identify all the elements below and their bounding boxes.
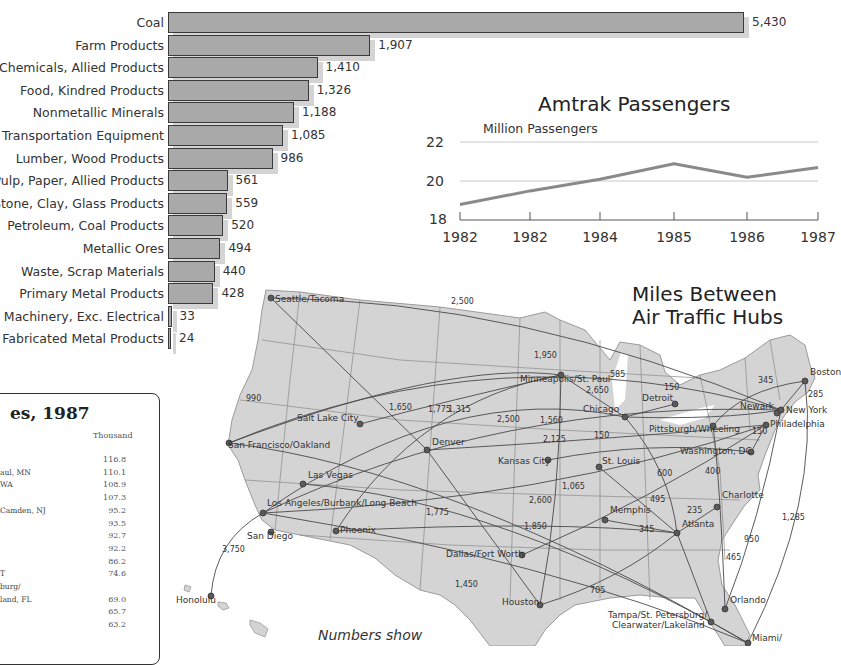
table-row-value: 74.6 — [108, 569, 126, 578]
distance-label: 1,450 — [455, 580, 478, 589]
hub-dot — [802, 378, 808, 384]
city-label: Miami/ — [752, 633, 782, 643]
table-row-label: aul, MN — [0, 468, 31, 477]
distance-label: 1,775 — [426, 508, 449, 517]
city-label: Charlotte — [722, 490, 764, 500]
city-label: Washington, DC — [680, 446, 752, 456]
distance-label: 400 — [705, 467, 720, 476]
table-row-value: 116.8 — [103, 455, 126, 464]
distance-label: 950 — [744, 535, 759, 544]
city-label: Philadelphia — [770, 419, 825, 429]
city-label: San Diego — [247, 531, 293, 541]
city-label: Las Vegas — [308, 470, 353, 480]
distance-label: 1,285 — [782, 513, 805, 522]
map-title-line2: Air Traffic Hubs — [632, 305, 783, 329]
city-label: Minneapolis/St. Paul — [520, 374, 610, 384]
distance-label: 585 — [610, 370, 625, 379]
distance-label: 150 — [664, 383, 679, 392]
city-label: Tampa/St. Petersburg/ — [608, 610, 707, 620]
hub-dot — [622, 414, 628, 420]
hub-dot — [268, 295, 274, 301]
city-label: Salt Lake City — [297, 413, 359, 423]
distance-label: 495 — [650, 495, 665, 504]
distance-label: 2,500 — [451, 297, 474, 306]
city-label: Pittsburgh/Wheeling — [649, 424, 740, 434]
hub-dot — [674, 530, 680, 536]
distance-label: 1,315 — [448, 405, 471, 414]
city-label: Clearwater/Lakeland — [612, 620, 705, 630]
distance-label: 465 — [726, 553, 741, 562]
map-note: Numbers show — [318, 627, 422, 643]
distance-label: 990 — [246, 394, 261, 403]
distance-label: 150 — [594, 431, 609, 440]
distance-label: 1,650 — [389, 403, 412, 412]
table-row-value: 63.2 — [108, 620, 126, 629]
distance-label: 2,125 — [543, 435, 566, 444]
city-label: Honolulu — [176, 595, 216, 605]
hub-dot — [260, 510, 266, 516]
table-row-value: 65.7 — [108, 607, 126, 616]
city-label: Atlanta — [682, 519, 714, 529]
hub-dot — [424, 447, 430, 453]
passenger-table-box — [0, 393, 160, 665]
hub-dot — [778, 407, 784, 413]
city-label: Boston — [810, 367, 841, 377]
distance-label: 235 — [687, 506, 702, 515]
table-row-value: 93.5 — [108, 519, 126, 528]
distance-label: 345 — [758, 376, 773, 385]
hub-dot — [745, 640, 751, 646]
city-label: Phoenix — [340, 525, 376, 535]
city-label: Orlando — [730, 595, 766, 605]
city-label: Chicago — [583, 404, 619, 414]
hub-dot — [300, 481, 306, 487]
city-label: New York — [786, 405, 827, 415]
city-label: Detroit — [642, 393, 673, 403]
city-label: St. Louis — [602, 456, 640, 466]
table-row-label: Camden, NJ — [0, 506, 46, 515]
distance-label: 3,750 — [222, 545, 245, 554]
city-label: San Francisco/Oakland — [228, 440, 330, 450]
table-title: es, 1987 — [10, 403, 90, 423]
distance-label: 345 — [639, 525, 654, 534]
table-row-label: burg/ — [0, 582, 21, 591]
hub-dot — [333, 528, 339, 534]
distance-label: 1,065 — [562, 482, 585, 491]
table-row-value: 69.0 — [108, 595, 126, 604]
table-row-label: T — [0, 569, 5, 578]
distance-label: 1,560 — [540, 416, 563, 425]
city-label: Seattle/Tacoma — [275, 294, 344, 304]
city-label: Newark — [740, 401, 774, 411]
table-row-value: 92.2 — [108, 544, 126, 553]
city-label: Los Angeles/Burbank/Long Beach — [267, 498, 417, 508]
city-label: Houston — [502, 597, 539, 607]
table-column-header: Thousand — [93, 431, 133, 440]
table-row-value: 107.3 — [103, 493, 126, 502]
city-label: Kansas City — [498, 456, 550, 466]
distance-label: 2,600 — [529, 496, 552, 505]
hub-dot — [602, 517, 608, 523]
distance-label: 1,850 — [524, 522, 547, 531]
table-row-value: 95.2 — [108, 506, 126, 515]
distance-label: 285 — [808, 390, 823, 399]
distance-label: 600 — [657, 469, 672, 478]
distance-label: 1,950 — [534, 351, 557, 360]
table-row-label: WA — [0, 480, 13, 489]
table-row-value: 86.2 — [108, 557, 126, 566]
city-label: Denver — [432, 437, 465, 447]
table-row-value: 92.7 — [108, 531, 126, 540]
distance-label: 2,650 — [586, 386, 609, 395]
table-row-value: 108.9 — [103, 480, 126, 489]
distance-label: 705 — [590, 586, 605, 595]
distance-label: 2,500 — [497, 415, 520, 424]
hub-dot — [708, 619, 714, 625]
map-title-line1: Miles Between — [632, 282, 777, 306]
hub-dot — [714, 504, 720, 510]
hub-dot — [722, 606, 728, 612]
table-row-value: 110.1 — [103, 468, 126, 477]
table-row-label: land, FL — [0, 595, 31, 604]
city-label: Dallas/Fort Worth — [446, 549, 524, 559]
distance-label: 150 — [752, 427, 767, 436]
city-label: Memphis — [610, 505, 651, 515]
